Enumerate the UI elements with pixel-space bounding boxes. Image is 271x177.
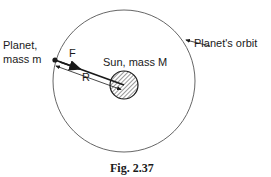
planet-label-line1: Planet, [3, 39, 37, 51]
orbit-label: Planet's orbit [194, 37, 257, 49]
radius-label: R [82, 71, 90, 83]
planet-dot [52, 57, 57, 62]
force-label: F [69, 47, 76, 59]
orbit-diagram: Planet, mass m F R Sun, mass M Planet's … [0, 0, 271, 177]
sun-label: Sun, mass M [103, 56, 167, 68]
force-arrow [60, 62, 80, 69]
figure-caption: Fig. 2.37 [110, 161, 154, 175]
planet-label-line2: mass m [3, 53, 42, 65]
